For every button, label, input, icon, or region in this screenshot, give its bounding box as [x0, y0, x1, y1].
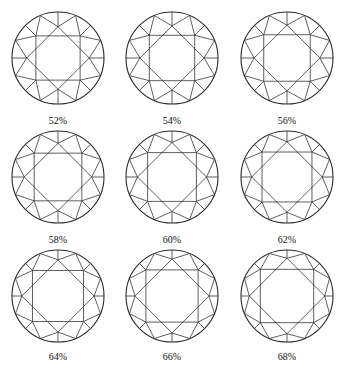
diamond-facet-diagram [115, 246, 229, 346]
upper-girdle-line [269, 254, 287, 259]
upper-girdle-line [195, 35, 215, 40]
diamond-facet-diagram [1, 8, 115, 108]
upper-girdle-line [40, 254, 58, 260]
upper-girdle-line [172, 212, 190, 220]
upper-girdle-line [320, 40, 330, 58]
bezel-line [310, 81, 319, 90]
upper-girdle-line [287, 212, 305, 219]
upper-girdle-line [130, 296, 136, 314]
bezel-line [139, 201, 147, 209]
upper-girdle-line [16, 278, 22, 296]
upper-girdle-line [149, 16, 154, 36]
bezel-line [254, 81, 263, 90]
upper-girdle-line [245, 159, 252, 177]
upper-girdle-line [84, 314, 101, 322]
upper-girdle-line [287, 91, 305, 101]
bezel-line [84, 322, 91, 329]
upper-girdle-line [154, 90, 172, 100]
upper-girdle-line [16, 177, 25, 195]
upper-girdle-line [130, 58, 140, 76]
upper-girdle-line [16, 40, 27, 58]
upper-girdle-line [245, 278, 250, 296]
bezel-line [254, 263, 260, 269]
bezel-line [312, 202, 320, 210]
upper-girdle-line [58, 16, 76, 27]
upper-girdle-line [287, 254, 305, 259]
upper-girdle-line [130, 40, 140, 58]
diamond-facet-diagram [1, 127, 115, 227]
upper-girdle-line [130, 35, 150, 40]
upper-girdle-line [154, 254, 172, 260]
upper-girdle-line [154, 212, 172, 220]
table-percent-label: 64% [1, 351, 115, 363]
upper-girdle-line [92, 159, 101, 177]
upper-girdle-line [269, 212, 287, 219]
bezel-line [312, 144, 320, 152]
upper-girdle-line [130, 278, 136, 296]
bezel-line [310, 25, 319, 34]
diamond-table-grid: 52% 54% 56% 58% 60% 62% 64% 66% 68% [0, 0, 344, 370]
diamond-facet-diagram [230, 127, 344, 227]
bezel-line [139, 81, 149, 91]
upper-girdle-line [322, 177, 329, 195]
upper-girdle-line [16, 159, 25, 177]
upper-girdle-line [204, 58, 214, 76]
bezel-line [195, 25, 205, 35]
bezel-line [82, 144, 91, 153]
bezel-line [195, 81, 205, 91]
bezel-line [198, 322, 204, 328]
bezel-line [25, 25, 35, 35]
table-percent-label: 56% [230, 115, 344, 127]
upper-girdle-line [204, 40, 214, 58]
upper-girdle-line [154, 135, 172, 143]
bezel-line [25, 322, 32, 329]
bezel-line [139, 322, 145, 328]
upper-girdle-line [172, 254, 190, 260]
upper-girdle-line [245, 58, 255, 76]
upper-girdle-line [154, 333, 172, 339]
upper-girdle-line [16, 36, 36, 41]
upper-girdle-line [322, 159, 329, 177]
upper-girdle-line [76, 16, 81, 36]
upper-girdle-line [154, 16, 172, 26]
table-percent-label: 54% [115, 115, 229, 127]
upper-girdle-line [207, 177, 215, 195]
upper-girdle-line [89, 58, 100, 76]
upper-girdle-line [149, 81, 154, 101]
upper-girdle-line [58, 89, 76, 100]
upper-girdle-line [190, 16, 195, 36]
upper-girdle-line [16, 58, 27, 76]
bezel-line [198, 263, 204, 269]
upper-girdle-line [76, 80, 81, 100]
upper-girdle-line [287, 135, 305, 142]
upper-girdle-line [76, 322, 84, 339]
bezel-line [139, 263, 145, 269]
bezel-line [25, 144, 34, 153]
upper-girdle-line [16, 314, 33, 322]
table-percent-label: 58% [1, 234, 115, 246]
upper-girdle-line [16, 270, 33, 278]
bezel-line [80, 80, 90, 90]
upper-girdle-line [94, 278, 100, 296]
upper-girdle-line [245, 296, 250, 314]
upper-girdle-line [84, 270, 101, 278]
upper-girdle-line [209, 296, 215, 314]
upper-girdle-line [40, 135, 58, 144]
bezel-line [80, 25, 90, 35]
upper-girdle-line [80, 36, 100, 41]
upper-girdle-line [32, 254, 40, 271]
upper-girdle-line [58, 135, 76, 144]
table-percent-label: 60% [115, 234, 229, 246]
bezel-line [25, 201, 34, 210]
upper-girdle-line [58, 254, 76, 260]
upper-girdle-line [320, 58, 330, 76]
upper-girdle-line [36, 80, 41, 100]
upper-girdle-line [245, 177, 252, 195]
diamond-facet-diagram [230, 8, 344, 108]
upper-girdle-line [172, 333, 190, 339]
upper-girdle-line [172, 135, 190, 143]
upper-girdle-line [16, 296, 22, 314]
upper-girdle-line [40, 211, 58, 220]
upper-girdle-line [80, 76, 100, 81]
upper-girdle-line [76, 254, 84, 271]
